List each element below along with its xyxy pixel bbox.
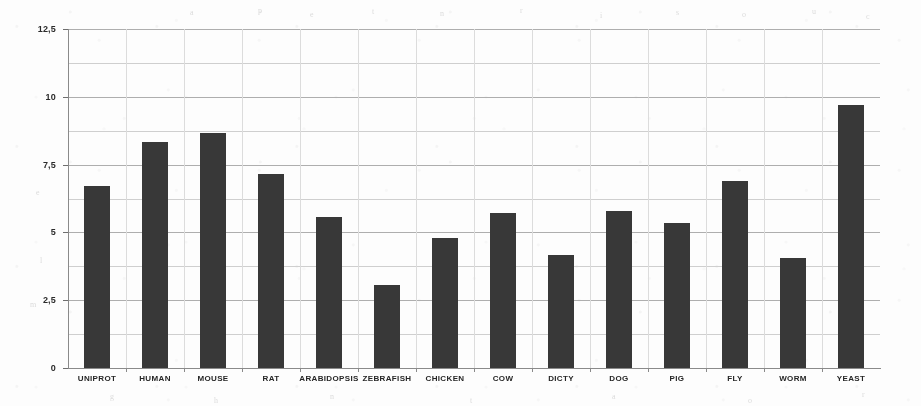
x-axis-tick-mark [532, 368, 533, 372]
x-axis-label-dog: DOG [609, 374, 628, 383]
x-axis-tick-mark [648, 368, 649, 372]
gridline-vertical [126, 29, 127, 368]
bar-human[interactable] [142, 142, 168, 368]
gridline-vertical [300, 29, 301, 368]
bar-uniprot[interactable] [84, 186, 110, 368]
gridline-vertical [648, 29, 649, 368]
gridline-vertical [532, 29, 533, 368]
x-axis-label-worm: WORM [779, 374, 807, 383]
bar-fly[interactable] [722, 181, 748, 368]
y-axis-tick-label: 7,5 [0, 160, 56, 170]
gridline-vertical [416, 29, 417, 368]
gridline-vertical [474, 29, 475, 368]
y-axis-tick-label: 10 [0, 92, 56, 102]
y-axis-tick-mark [63, 300, 68, 301]
bar-rat[interactable] [258, 174, 284, 368]
y-axis-tick-label: 12,5 [0, 24, 56, 34]
x-axis-tick-mark [706, 368, 707, 372]
x-axis-tick-mark [242, 368, 243, 372]
chart-page: apetnrisoucelmghntaor 02,557,51012,5UNIP… [0, 0, 921, 406]
x-axis-tick-mark [764, 368, 765, 372]
x-axis-label-dicty: DICTY [548, 374, 574, 383]
y-axis-tick-mark [63, 232, 68, 233]
bar-mouse[interactable] [200, 133, 226, 368]
gridline-vertical [242, 29, 243, 368]
bar-chicken[interactable] [432, 238, 458, 368]
bar-dog[interactable] [606, 211, 632, 368]
x-axis-tick-mark [126, 368, 127, 372]
y-axis-tick-mark [63, 165, 68, 166]
bar-arabidopsis[interactable] [316, 217, 342, 368]
gridline-vertical [764, 29, 765, 368]
gridline-vertical [358, 29, 359, 368]
gridline-vertical [822, 29, 823, 368]
bar-worm[interactable] [780, 258, 806, 368]
x-axis-label-arabidopsis: ARABIDOPSIS [299, 374, 358, 383]
x-axis-tick-mark [184, 368, 185, 372]
x-axis-label-uniprot: UNIPROT [78, 374, 116, 383]
x-axis-label-pig: PIG [670, 374, 685, 383]
bar-pig[interactable] [664, 223, 690, 368]
x-axis-tick-mark [300, 368, 301, 372]
bar-yeast[interactable] [838, 105, 864, 368]
y-axis-tick-label: 5 [0, 227, 56, 237]
x-axis-tick-mark [822, 368, 823, 372]
x-axis-tick-mark [358, 368, 359, 372]
y-axis-tick-label: 2,5 [0, 295, 56, 305]
x-axis-label-rat: RAT [263, 374, 280, 383]
x-axis-label-mouse: MOUSE [197, 374, 228, 383]
y-axis-tick-mark [63, 368, 68, 369]
x-axis-label-zebrafish: ZEBRAFISH [363, 374, 412, 383]
x-axis-label-cow: COW [493, 374, 514, 383]
plot-area [68, 29, 880, 368]
x-axis-tick-mark [416, 368, 417, 372]
y-axis-tick-label: 0 [0, 363, 56, 373]
bar-dicty[interactable] [548, 255, 574, 368]
bar-cow[interactable] [490, 213, 516, 368]
x-axis-label-yeast: YEAST [837, 374, 865, 383]
x-axis-label-human: HUMAN [139, 374, 171, 383]
y-axis-tick-mark [63, 97, 68, 98]
gridline-vertical [706, 29, 707, 368]
x-axis-tick-mark [590, 368, 591, 372]
x-axis-tick-mark [474, 368, 475, 372]
gridline-vertical [184, 29, 185, 368]
x-axis-label-chicken: CHICKEN [426, 374, 465, 383]
bar-zebrafish[interactable] [374, 285, 400, 368]
y-axis-line [68, 29, 69, 369]
y-axis-tick-mark [63, 29, 68, 30]
gridline-vertical [590, 29, 591, 368]
x-axis-label-fly: FLY [727, 374, 742, 383]
